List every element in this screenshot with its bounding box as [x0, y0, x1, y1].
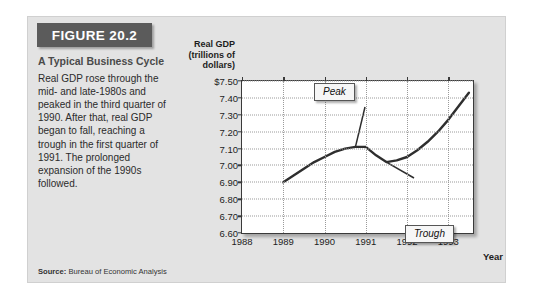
x-gridline [407, 81, 408, 233]
y-gridline [242, 131, 473, 132]
data-line [283, 93, 469, 183]
caption-body: Real GDP rose through the mid- and late-… [38, 72, 172, 191]
source-label: Source: [38, 267, 66, 276]
chart-area: Real GDP (trillions of dollars) $7.507.4… [173, 39, 503, 277]
annotation-peak: Peak [314, 83, 355, 101]
y-gridline [242, 114, 473, 115]
y-tick-mark [238, 199, 242, 200]
annotation-trough: Trough [405, 225, 454, 243]
x-gridline [448, 81, 449, 233]
y-gridline [242, 199, 473, 200]
x-tick-mark [283, 77, 284, 81]
y-gridline [242, 81, 473, 82]
y-tick-label: 6.60 [176, 228, 238, 239]
y-gridline [242, 182, 473, 183]
y-tick-mark [238, 114, 242, 115]
y-tick-mark [238, 97, 242, 98]
caption-column: A Typical Business Cycle Real GDP rose t… [38, 55, 172, 190]
y-tick-mark [238, 232, 242, 233]
y-tick-label: 7.20 [176, 126, 238, 137]
annotation-leader-line [355, 107, 365, 147]
y-gridline [242, 148, 473, 149]
y-tick-mark [238, 182, 242, 183]
y-tick-mark [238, 131, 242, 132]
source-note: Source: Bureau of Economic Analysis [38, 267, 167, 276]
y-gridline [242, 216, 473, 217]
y-axis-title-line-2: (trillions of [173, 50, 235, 61]
x-tick-mark [242, 77, 243, 81]
x-tick-label: 1988 [231, 236, 252, 247]
x-tick-label: 1989 [273, 236, 294, 247]
y-tick-label: 7.10 [176, 143, 238, 154]
gdp-line-chart [242, 81, 473, 233]
y-tick-label: 7.40 [176, 92, 238, 103]
x-axis-title: Year [483, 251, 503, 262]
y-tick-label: 7.30 [176, 109, 238, 120]
figure-panel: FIGURE 20.2 A Typical Business Cycle Rea… [27, 16, 506, 283]
y-tick-label: 7.00 [176, 160, 238, 171]
caption-title: A Typical Business Cycle [38, 55, 172, 68]
x-tick-label: 1990 [314, 236, 335, 247]
y-gridline [242, 165, 473, 166]
y-axis-title-line-1: Real GDP [173, 39, 235, 50]
source-text: Bureau of Economic Analysis [66, 267, 166, 276]
x-tick-label: 1991 [355, 236, 376, 247]
y-tick-label: 6.70 [176, 211, 238, 222]
y-tick-mark [238, 165, 242, 166]
y-gridline [242, 97, 473, 98]
y-axis-title: Real GDP (trillions of dollars) [173, 39, 235, 71]
figure-number-header: FIGURE 20.2 [37, 23, 152, 47]
y-tick-label: $7.50 [176, 76, 238, 87]
plot-box: $7.507.407.307.207.107.006.906.806.706.6… [241, 80, 474, 234]
x-tick-mark [448, 77, 449, 81]
y-axis-title-line-3: dollars) [173, 60, 235, 71]
y-tick-mark [238, 215, 242, 216]
y-tick-label: 6.90 [176, 177, 238, 188]
y-tick-label: 6.80 [176, 194, 238, 205]
x-tick-mark [325, 77, 326, 81]
x-gridline [325, 81, 326, 233]
x-tick-mark [407, 77, 408, 81]
x-gridline [283, 81, 284, 233]
x-tick-mark [366, 77, 367, 81]
x-gridline [366, 81, 367, 233]
y-tick-mark [238, 148, 242, 149]
